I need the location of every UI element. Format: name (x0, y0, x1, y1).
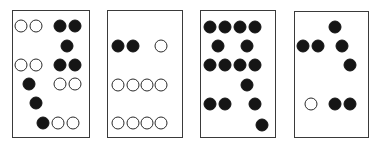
filled-circle-icon (112, 40, 125, 53)
filled-circle-icon (344, 59, 357, 72)
filled-circle-icon (212, 40, 225, 53)
filled-circle-icon (204, 21, 217, 34)
filled-circle-icon (54, 20, 67, 33)
filled-circle-icon (69, 59, 82, 72)
filled-circle-icon (234, 21, 247, 34)
open-circle-icon (52, 117, 65, 130)
open-circle-icon (69, 78, 82, 91)
open-circle-icon (127, 117, 140, 130)
filled-circle-icon (256, 119, 269, 132)
open-circle-icon (54, 78, 67, 91)
filled-circle-icon (329, 98, 342, 111)
filled-circle-icon (37, 117, 50, 130)
filled-circle-icon (23, 78, 36, 91)
open-circle-icon (155, 117, 168, 130)
filled-circle-icon (344, 98, 357, 111)
filled-circle-icon (61, 40, 74, 53)
filled-circle-icon (69, 20, 82, 33)
open-circle-icon (141, 79, 154, 92)
open-circle-icon (15, 20, 28, 33)
open-circle-icon (155, 79, 168, 92)
open-circle-icon (30, 20, 43, 33)
filled-circle-icon (249, 98, 262, 111)
filled-circle-icon (127, 40, 140, 53)
filled-circle-icon (249, 21, 262, 34)
filled-circle-icon (219, 21, 232, 34)
open-circle-icon (141, 117, 154, 130)
open-circle-icon (112, 117, 125, 130)
filled-circle-icon (241, 79, 254, 92)
filled-circle-icon (312, 40, 325, 53)
open-circle-icon (67, 117, 80, 130)
open-circle-icon (155, 40, 168, 53)
open-circle-icon (112, 79, 125, 92)
filled-circle-icon (204, 59, 217, 72)
open-circle-icon (127, 79, 140, 92)
open-circle-icon (15, 59, 28, 72)
filled-circle-icon (219, 98, 232, 111)
open-circle-icon (305, 98, 318, 111)
filled-circle-icon (241, 40, 254, 53)
filled-circle-icon (249, 59, 262, 72)
filled-circle-icon (219, 59, 232, 72)
open-circle-icon (30, 59, 43, 72)
filled-circle-icon (30, 97, 43, 110)
filled-circle-icon (297, 40, 310, 53)
filled-circle-icon (204, 98, 217, 111)
filled-circle-icon (234, 59, 247, 72)
filled-circle-icon (329, 21, 342, 34)
filled-circle-icon (54, 59, 67, 72)
filled-circle-icon (336, 40, 349, 53)
